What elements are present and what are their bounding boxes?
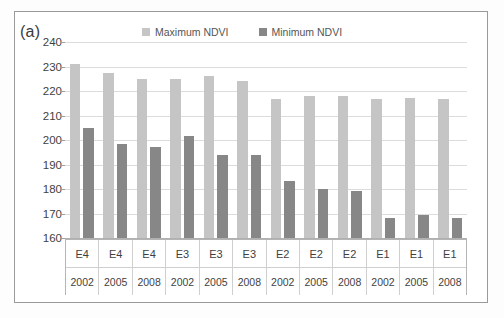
bar-group bbox=[99, 42, 133, 238]
category-site-label: E3 bbox=[200, 240, 232, 268]
bar-group bbox=[233, 42, 267, 238]
bar-minimum-ndvi bbox=[284, 181, 295, 238]
category-site-label: E4 bbox=[133, 240, 165, 268]
bar-group bbox=[266, 42, 300, 238]
y-axis-tick-mark bbox=[60, 189, 65, 190]
category-year-label: 2002 bbox=[267, 268, 299, 295]
category-year-label: 2002 bbox=[367, 268, 399, 295]
panel-tag-label: (a) bbox=[20, 23, 40, 41]
bar-maximum-ndvi bbox=[170, 79, 181, 238]
category-column: E22008 bbox=[333, 240, 366, 295]
category-column: E42002 bbox=[65, 240, 99, 295]
category-year-label: 2008 bbox=[233, 268, 265, 295]
bar-minimum-ndvi bbox=[251, 155, 262, 238]
y-axis-tick-mark bbox=[60, 165, 65, 166]
category-site-label: E1 bbox=[400, 240, 432, 268]
bar-group bbox=[199, 42, 233, 238]
category-column: E42008 bbox=[133, 240, 166, 295]
category-column: E12008 bbox=[434, 240, 467, 295]
bar-group bbox=[400, 42, 434, 238]
y-axis-labels: 240230220210200190180170160 bbox=[18, 42, 62, 239]
category-column: E32002 bbox=[166, 240, 199, 295]
bar-maximum-ndvi bbox=[405, 98, 416, 238]
category-site-label: E3 bbox=[233, 240, 265, 268]
category-column: E42005 bbox=[99, 240, 132, 295]
category-site-label: E3 bbox=[166, 240, 198, 268]
category-axis-table: E42002E42005E42008E32002E32005E32008E220… bbox=[65, 239, 467, 295]
category-year-label: 2002 bbox=[66, 268, 98, 295]
bar-group bbox=[333, 42, 367, 238]
category-year-label: 2008 bbox=[333, 268, 365, 295]
bar-group bbox=[132, 42, 166, 238]
category-year-label: 2008 bbox=[434, 268, 466, 295]
legend-swatch-icon bbox=[259, 28, 267, 36]
bar-group bbox=[166, 42, 200, 238]
bar-minimum-ndvi bbox=[117, 144, 128, 238]
bar-group bbox=[300, 42, 334, 238]
category-year-label: 2005 bbox=[400, 268, 432, 295]
legend-maximum-ndvi: Maximum NDVI bbox=[142, 26, 229, 38]
category-year-label: 2005 bbox=[99, 268, 131, 295]
y-axis-tick-mark bbox=[60, 238, 65, 239]
category-column: E22005 bbox=[300, 240, 333, 295]
category-site-label: E2 bbox=[300, 240, 332, 268]
category-column: E32005 bbox=[200, 240, 233, 295]
category-year-label: 2005 bbox=[200, 268, 232, 295]
bar-minimum-ndvi bbox=[150, 147, 161, 238]
legend-swatch-icon bbox=[142, 28, 150, 36]
y-axis-tick-mark bbox=[60, 67, 65, 68]
y-axis-tick-mark bbox=[60, 140, 65, 141]
y-axis-tick-mark bbox=[60, 214, 65, 215]
bar-maximum-ndvi bbox=[271, 99, 282, 238]
bar-maximum-ndvi bbox=[204, 76, 215, 238]
plot-area bbox=[65, 42, 467, 238]
bar-minimum-ndvi bbox=[217, 155, 228, 238]
bar-minimum-ndvi bbox=[83, 128, 94, 238]
category-year-label: 2008 bbox=[133, 268, 165, 295]
legend-label: Maximum NDVI bbox=[155, 26, 229, 38]
category-column: E12005 bbox=[400, 240, 433, 295]
bar-group bbox=[434, 42, 468, 238]
bar-minimum-ndvi bbox=[318, 189, 329, 238]
bar-maximum-ndvi bbox=[338, 96, 349, 238]
category-column: E22002 bbox=[267, 240, 300, 295]
y-axis-tick-mark bbox=[60, 91, 65, 92]
y-axis-tick-mark bbox=[60, 116, 65, 117]
bar-maximum-ndvi bbox=[103, 73, 114, 238]
category-site-label: E4 bbox=[66, 240, 98, 268]
legend-label: Minimum NDVI bbox=[272, 26, 343, 38]
category-site-label: E2 bbox=[333, 240, 365, 268]
bar-group bbox=[65, 42, 99, 238]
bar-maximum-ndvi bbox=[438, 99, 449, 238]
y-axis-tick-mark bbox=[60, 42, 65, 43]
category-site-label: E4 bbox=[99, 240, 131, 268]
bar-minimum-ndvi bbox=[351, 191, 362, 238]
figure-panel-a: (a) Maximum NDVIMinimum NDVI 24023022021… bbox=[0, 0, 504, 318]
chart-legend: Maximum NDVIMinimum NDVI bbox=[142, 26, 342, 38]
bar-minimum-ndvi bbox=[418, 215, 429, 238]
bar-minimum-ndvi bbox=[184, 136, 195, 238]
category-site-label: E1 bbox=[434, 240, 466, 268]
bar-minimum-ndvi bbox=[452, 218, 463, 238]
category-column: E12002 bbox=[367, 240, 400, 295]
category-column: E32008 bbox=[233, 240, 266, 295]
category-site-label: E2 bbox=[267, 240, 299, 268]
bar-maximum-ndvi bbox=[371, 99, 382, 238]
category-site-label: E1 bbox=[367, 240, 399, 268]
bar-maximum-ndvi bbox=[137, 79, 148, 238]
bar-maximum-ndvi bbox=[304, 96, 315, 238]
bar-maximum-ndvi bbox=[237, 81, 248, 238]
bar-maximum-ndvi bbox=[70, 64, 81, 238]
legend-minimum-ndvi: Minimum NDVI bbox=[259, 26, 343, 38]
bar-minimum-ndvi bbox=[385, 218, 396, 238]
category-year-label: 2005 bbox=[300, 268, 332, 295]
bar-group bbox=[367, 42, 401, 238]
category-year-label: 2002 bbox=[166, 268, 198, 295]
